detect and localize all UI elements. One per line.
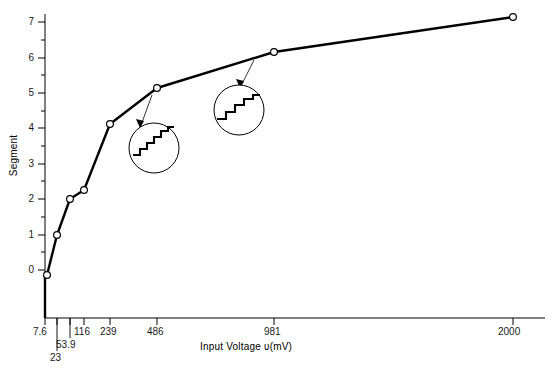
y-tick-label: 1 [12,229,34,240]
data-point [44,272,51,279]
data-point [107,121,114,128]
y-tick-label: 7 [12,16,34,27]
data-point [81,187,88,194]
y-tick-label: 5 [12,87,34,98]
y-tick-label: 6 [12,52,34,63]
y-tick-label: 0 [12,264,34,275]
x-tick-label-239: 239 [100,326,117,337]
x-axis-ticks [45,318,513,325]
y-axis-title: Segment [8,121,19,191]
x-tick-label-981: 981 [264,326,281,337]
x-tick-label-486: 486 [147,326,164,337]
data-series-line [45,17,513,318]
data-point [67,196,74,203]
data-point [271,49,278,56]
chart-canvas [0,0,555,370]
y-axis-minor-ticks [41,40,45,252]
y-tick-label: 2 [12,193,34,204]
x-axis-title: Input Voltage ʋ(mV) [200,341,292,352]
figure-chart: 7 6 5 4 3 2 1 0 7.6 23 53.9 116 239 486 … [0,0,555,370]
data-point-markers [44,14,517,279]
callout-detail-1 [129,95,179,173]
callout-detail-2 [214,60,264,135]
data-point [154,85,161,92]
x-label-leader-lines [40,318,100,370]
x-tick-label-2000: 2000 [498,326,520,337]
data-point [510,14,517,21]
data-point [54,232,61,239]
